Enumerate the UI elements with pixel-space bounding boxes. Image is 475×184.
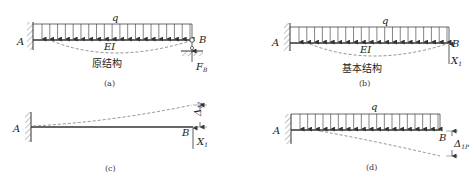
load-label: q <box>382 15 388 26</box>
redundant-force-label: X1 <box>450 55 462 67</box>
fixed-support-icon <box>285 114 291 144</box>
stiffness-label: EI <box>359 44 372 55</box>
panel-c: Δ11 A B X1 (c) <box>12 101 208 173</box>
load-label: q <box>371 101 377 112</box>
point-b-label: B <box>198 34 206 45</box>
stiffness-label: EI <box>103 41 116 52</box>
fixed-support-icon <box>27 22 33 50</box>
displacement-label: Δ1P <box>453 138 470 150</box>
fixed-support-icon <box>25 112 31 142</box>
displacement-label: Δ11 <box>192 101 203 117</box>
point-b-label: B <box>181 127 189 138</box>
panel-a: q A B EI 原结构 FB (a) <box>16 12 208 88</box>
basic-structure-label: 基本结构 <box>342 62 382 74</box>
deflection-curve <box>33 105 192 126</box>
fixed-support-icon <box>284 23 290 51</box>
caption-b: (b) <box>359 79 370 88</box>
caption-d: (d) <box>366 163 377 172</box>
caption-c: (c) <box>105 164 116 173</box>
point-a-label: A <box>272 125 280 136</box>
redundant-force-label: X1 <box>196 136 208 148</box>
deflection-curve <box>320 131 440 156</box>
point-a-label: A <box>271 37 279 48</box>
caption-a: (a) <box>104 79 115 88</box>
point-a-label: A <box>12 123 20 134</box>
point-b-label: B <box>438 132 446 143</box>
deflection-curve <box>52 41 190 53</box>
distributed-load-icon <box>291 114 440 129</box>
point-b-label: B <box>451 38 459 49</box>
distributed-load-icon <box>290 27 449 42</box>
original-structure-label: 原结构 <box>92 57 122 69</box>
point-a-label: A <box>16 36 24 47</box>
reaction-label: FB <box>195 61 208 73</box>
distributed-load-icon <box>33 24 192 39</box>
deflection-curve <box>310 44 447 56</box>
panel-b: q A B EI 基本结构 X1 (b) <box>271 15 462 88</box>
load-label: q <box>112 12 118 23</box>
panel-d: Δ1P q A B (d) <box>272 101 470 172</box>
